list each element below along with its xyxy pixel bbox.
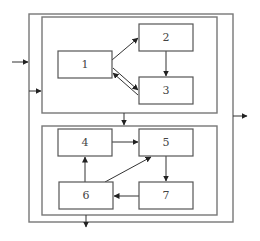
- node-5: 5: [139, 129, 193, 156]
- node-7: 7: [139, 182, 193, 209]
- node-1-label: 1: [82, 58, 89, 71]
- node-4: 4: [58, 129, 112, 156]
- node-6-label: 6: [83, 189, 90, 202]
- node-1: 1: [58, 51, 112, 78]
- edge-3-to-1: [113, 73, 138, 95]
- node-2: 2: [139, 24, 193, 51]
- edge-1-to-3: [113, 68, 138, 90]
- node-4-label: 4: [82, 136, 89, 149]
- node-5-label: 5: [163, 136, 170, 149]
- node-3-label: 3: [163, 84, 170, 97]
- node-7-label: 7: [163, 189, 170, 202]
- edge-1-to-2: [112, 38, 138, 60]
- system-diagram: 1 2 3 4 5 6 7: [0, 0, 260, 241]
- node-2-label: 2: [163, 31, 170, 44]
- node-3: 3: [139, 77, 193, 104]
- node-6: 6: [59, 182, 113, 209]
- edge-6-to-5: [105, 157, 151, 182]
